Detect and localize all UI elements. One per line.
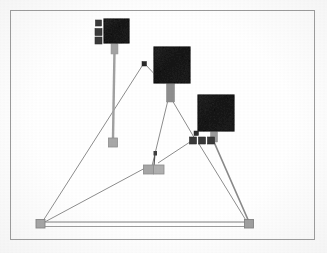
chip-right-3 <box>208 137 215 144</box>
edge-bottom-left-to-apex <box>41 63 144 224</box>
stem-center-panel <box>167 82 175 102</box>
diagram-vector-layer <box>0 0 327 253</box>
panel-left-dark-square <box>104 19 129 43</box>
diagram-edges <box>41 50 249 227</box>
chip-cluster-left <box>95 20 102 44</box>
edge-right-chips-to-bottom-right <box>199 144 247 222</box>
marker-left-pendant-foot <box>109 138 118 147</box>
chip-left-3 <box>95 37 102 44</box>
edge-right-stem-to-bottom-right <box>214 142 249 222</box>
diagram-base-markers <box>36 138 254 228</box>
marker-bottom-right-vertex <box>245 220 254 229</box>
edge-left-panel-vertical-drop <box>113 50 115 139</box>
chip-right-top <box>194 131 199 136</box>
edge-base-pair-to-right-chips <box>158 140 193 163</box>
diagram-dark-panels <box>104 19 234 131</box>
apex-node-square <box>142 62 147 67</box>
edge-center-panel-to-right-chips <box>172 100 195 139</box>
panel-right-dark-square <box>198 95 234 131</box>
needle-marker <box>154 151 158 166</box>
edge-bottom-left-to-base-pair <box>41 167 147 224</box>
marker-center-base-block-b <box>154 165 165 174</box>
chip-left-2 <box>95 29 102 36</box>
marker-bottom-left-vertex <box>36 220 45 229</box>
marker-center-base-block-a <box>144 165 154 174</box>
chip-right-2 <box>199 137 206 144</box>
figure-canvas: Scanned line diagram with shaded square … <box>0 0 327 253</box>
needle-cap <box>154 151 158 156</box>
panel-center-dark-square <box>154 47 190 83</box>
chip-left-1 <box>96 20 102 26</box>
chip-right-1 <box>190 137 197 144</box>
